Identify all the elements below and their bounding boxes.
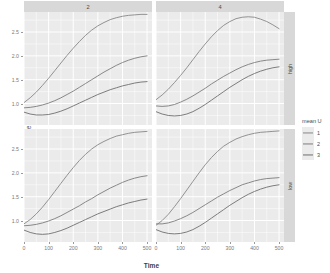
facet-strip-row: high: [284, 12, 295, 125]
x-tick-mark: [24, 242, 25, 244]
legend-entry[interactable]: 2: [302, 138, 322, 149]
y-tick-mark: [21, 149, 23, 150]
facet-strip-row: low: [284, 129, 295, 242]
x-tick-label: 400: [250, 245, 259, 251]
x-tick-mark: [49, 242, 50, 244]
x-tick-label: 100: [44, 245, 53, 251]
facet-strip-row-label: low: [287, 181, 293, 189]
x-tick-mark: [230, 242, 231, 244]
legend-key-swatch: [302, 127, 314, 138]
y-tick-label: 1.5: [0, 77, 19, 83]
panel-high-2: [24, 12, 152, 125]
x-tick-mark: [181, 242, 182, 244]
x-tick-mark: [122, 242, 123, 244]
y-tick-label: 1.0: [0, 101, 19, 107]
y-tick-mark: [21, 173, 23, 174]
x-tick-mark: [156, 242, 157, 244]
y-tick-label: 2.5: [0, 29, 19, 35]
y-tick-label: 2.0: [0, 170, 19, 176]
x-tick-label: 300: [94, 245, 103, 251]
y-tick-mark: [21, 197, 23, 198]
legend-title: mean U: [302, 118, 322, 124]
y-tick-label: 1.0: [0, 218, 19, 224]
x-tick-label: 200: [201, 245, 210, 251]
x-tick-label: 500: [275, 245, 284, 251]
y-tick-mark: [21, 221, 23, 222]
legend: mean U 123: [302, 118, 322, 160]
legend-entry[interactable]: 3: [302, 149, 322, 160]
legend-entries: 123: [302, 127, 322, 160]
y-tick-label: 1.5: [0, 194, 19, 200]
chart-figure: Prevalence ratio (PgPd) Time 1.01.01.51.…: [0, 0, 330, 273]
facet-strip-row-label: high: [287, 63, 293, 73]
y-tick-mark: [21, 104, 23, 105]
x-tick-label: 200: [69, 245, 78, 251]
facet-strip-col: 2: [24, 1, 152, 12]
x-tick-label: 500: [143, 245, 152, 251]
y-tick-mark: [21, 80, 23, 81]
x-axis-title: Time: [24, 262, 279, 269]
x-tick-label: 0: [23, 245, 26, 251]
x-tick-mark: [73, 242, 74, 244]
x-tick-label: 400: [118, 245, 127, 251]
legend-key-swatch: [302, 138, 314, 149]
facet-strip-col: 4: [156, 1, 284, 12]
x-tick-mark: [254, 242, 255, 244]
x-tick-mark: [205, 242, 206, 244]
panel-high-4: [156, 12, 284, 125]
legend-key-swatch: [302, 149, 314, 160]
y-tick-label: 2.5: [0, 146, 19, 152]
legend-label: 3: [317, 152, 320, 158]
y-tick-mark: [21, 56, 23, 57]
legend-label: 2: [317, 141, 320, 147]
x-tick-label: 0: [155, 245, 158, 251]
x-tick-mark: [279, 242, 280, 244]
x-tick-label: 100: [176, 245, 185, 251]
x-tick-mark: [98, 242, 99, 244]
panel-low-2: [24, 129, 152, 242]
x-tick-label: 300: [226, 245, 235, 251]
legend-label: 1: [317, 130, 320, 136]
panel-low-4: [156, 129, 284, 242]
y-tick-mark: [21, 32, 23, 33]
x-tick-mark: [147, 242, 148, 244]
legend-entry[interactable]: 1: [302, 127, 322, 138]
y-tick-label: 2.0: [0, 53, 19, 59]
